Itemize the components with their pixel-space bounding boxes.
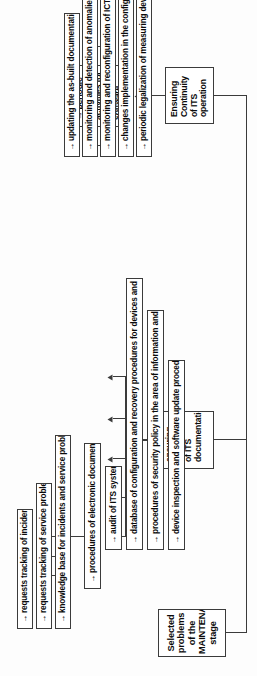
connector-consistency-b3	[113, 458, 126, 459]
leaf-text-12: changes implementation in the configurat…	[121, 0, 130, 141]
arrow-glyph-9: →	[67, 143, 76, 151]
leaf-label-proc-electronic-doc: →procedures of electronic documenting	[88, 443, 97, 586]
leaf-req-track-service: →requests tracking of service problems	[36, 483, 52, 629]
diagram-title: Selected problems of the MAINTENANCE sta…	[166, 609, 218, 657]
leaf-text-5: device inspection and software update pr…	[172, 360, 181, 534]
leaf-label-req-track-incidents: →requests tracking of incidents	[20, 509, 29, 626]
arrow-glyph-7: →	[39, 615, 48, 623]
connector-consistency-b5	[113, 376, 126, 377]
arrow-glyph-1: →	[88, 575, 97, 583]
leaf-text-3: database of configuration and recovery p…	[130, 278, 139, 534]
group-box-continuity: Ensuring Continuity of ITS operation	[165, 67, 214, 124]
group-label-continuity-line-1: Ensuring	[169, 81, 179, 117]
leaf-text-9: updating the as-built documentation	[67, 13, 76, 141]
arrow-glyph-11: →	[103, 143, 112, 151]
diagram-canvas: Selected problems of the MAINTENANCE sta…	[0, 0, 257, 676]
arrow-glyph-2: →	[109, 536, 118, 544]
leaf-periodic-legalization: →periodic legalization of measuring devi…	[136, 0, 152, 157]
leaf-label-periodic-legalization: →periodic legalization of measuring devi…	[139, 0, 148, 154]
leaf-proc-electronic-doc: →procedures of electronic documenting	[84, 443, 101, 589]
connector-trunk-to-continuity	[214, 95, 247, 96]
arrow-glyph-10: →	[85, 143, 94, 151]
leaf-label-monitoring-ict: →monitoring and reconfiguration of ICT n…	[103, 0, 112, 154]
leaf-label-audit-its: →audit of ITS system	[109, 466, 118, 547]
leaf-label-security-policy: →procedures of security policy in the ar…	[151, 310, 160, 547]
connector-consistency-b4	[113, 418, 126, 419]
leaf-label-req-track-service: →requests tracking of service problems	[39, 483, 48, 626]
leaf-label-db-config-recovery: →database of configuration and recovery …	[130, 278, 139, 547]
leaf-text-6: requests tracking of incidents	[20, 509, 29, 613]
leaf-label-monitoring-anomalies: →monitoring and detection of anomalies i…	[85, 0, 94, 154]
arrowhead-consistency-b3	[108, 457, 113, 463]
group-label-continuity: Ensuring Continuity of ITS operation	[170, 71, 209, 120]
leaf-text-7: requests tracking of service problems	[39, 483, 48, 613]
leaf-knowledge-base: →knowledge base for incidents and servic…	[55, 435, 71, 629]
arrowhead-consistency-b4	[108, 417, 113, 423]
leaf-audit-its: →audit of ITS system	[105, 466, 122, 550]
group-label-continuity-line-3: of ITS operation	[189, 79, 209, 117]
group-label-consistency-line-4: documentation	[193, 411, 203, 462]
leaf-text-8: knowledge base for incidents and service…	[58, 435, 67, 613]
arrow-glyph-3: →	[130, 536, 139, 544]
leaf-label-updating-asbuilt: →updating the as-built documentation	[67, 13, 76, 154]
leaf-monitoring-ict: →monitoring and reconfiguration of ICT n…	[100, 0, 116, 157]
leaf-text-1: procedures of electronic documenting	[88, 443, 97, 573]
leaf-label-knowledge-base: →knowledge base for incidents and servic…	[58, 435, 67, 626]
leaf-text-13: periodic legalization of measuring devic…	[139, 0, 148, 141]
arrow-glyph-8: →	[58, 615, 67, 623]
arrow-glyph-12: →	[121, 143, 130, 151]
leaf-db-config-recovery: →database of configuration and recovery …	[126, 278, 143, 550]
diagram-stage: Selected problems of the MAINTENANCE sta…	[0, 0, 257, 676]
arrowhead-consistency-b5	[108, 375, 113, 381]
leaf-req-track-incidents: →requests tracking of incidents	[17, 509, 33, 629]
leaf-text-4: procedures of security policy in the are…	[151, 310, 160, 534]
arrow-glyph-5: →	[172, 536, 181, 544]
arrow-glyph-6: →	[20, 615, 29, 623]
leaf-text-11: monitoring and reconfiguration of ICT ne…	[103, 0, 112, 141]
arrow-glyph-4: →	[151, 536, 160, 544]
leaf-monitoring-anomalies: →monitoring and detection of anomalies i…	[82, 0, 98, 157]
leaf-security-policy: →procedures of security policy in the ar…	[147, 310, 164, 550]
leaf-label-device-inspection: →device inspection and software update p…	[172, 360, 181, 547]
leaf-text-2: audit of ITS system	[109, 466, 118, 534]
connector-trunk-main	[246, 95, 247, 633]
leaf-changes-config: →changes implementation in the configura…	[118, 0, 134, 157]
arrow-glyph-13: →	[139, 143, 148, 151]
leaf-label-changes-config: →changes implementation in the configura…	[121, 0, 130, 154]
diagram-title-box: Selected problems of the MAINTENANCE sta…	[158, 609, 226, 657]
connector-title-down	[226, 632, 247, 633]
leaf-updating-asbuilt: →updating the as-built documentation	[64, 13, 80, 157]
leaf-device-inspection: →device inspection and software update p…	[168, 360, 185, 550]
connector-trunk-to-consistency	[214, 439, 247, 440]
leaf-text-10: monitoring and detection of anomalies in…	[85, 0, 94, 141]
group-label-continuity-line-2: Continuity	[179, 76, 189, 117]
